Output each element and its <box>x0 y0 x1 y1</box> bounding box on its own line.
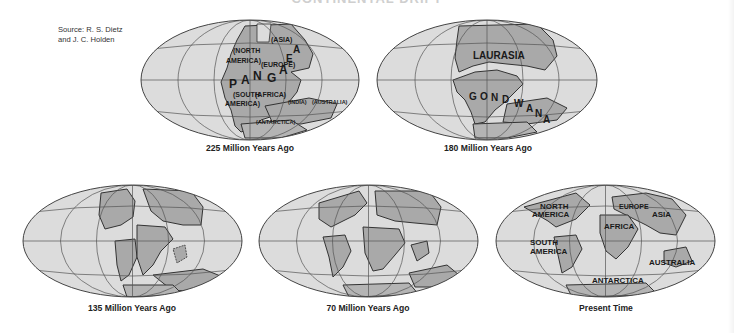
caption-70-million-years-ago: 70 Million Years Ago <box>326 303 409 313</box>
svg-text:A: A <box>526 103 533 114</box>
label-africa: (AFRICA) <box>255 91 286 99</box>
globe-135-mya <box>23 185 242 297</box>
source-line-2: and J. C. Holden <box>58 35 123 45</box>
label-north-america: AMERICA <box>532 210 570 219</box>
label-asia: ASIA <box>652 210 671 219</box>
map-135-million-years-ago <box>23 185 242 297</box>
pangaea-globe: (ASIA) (NORTH AMERICA) (EUROPE) (SOUTH A… <box>141 20 359 140</box>
globe-70-mya <box>259 185 478 297</box>
map-180-million-years-ago: LAURASIA G O N D W A N A <box>377 20 597 140</box>
label-south: SOUTH <box>530 238 558 247</box>
svg-text:G: G <box>469 91 477 102</box>
caption-present-time: Present Time <box>579 303 633 313</box>
svg-text:W: W <box>514 98 524 109</box>
label-south-america: AMERICA <box>530 247 568 256</box>
svg-text:A: A <box>543 114 550 125</box>
caption-135-million-years-ago: 135 Million Years Ago <box>88 303 176 313</box>
source-line-1: Source: R. S. Dietz <box>58 25 123 35</box>
svg-text:P: P <box>229 77 237 91</box>
svg-text:A: A <box>279 63 288 77</box>
figure-title-cropped: CONTINENTAL DRIFT <box>0 0 734 6</box>
caption-225-million-years-ago: 225 Million Years Ago <box>206 143 294 153</box>
label-africa: AFRICA <box>604 222 634 231</box>
svg-text:A: A <box>293 44 300 55</box>
svg-text:N: N <box>253 69 262 83</box>
label-europe: EUROPE <box>619 203 649 210</box>
source-credit: Source: R. S. Dietz and J. C. Holden <box>58 25 123 45</box>
globe-present: NORTH AMERICA EUROPE ASIA AFRICA SOUTH A… <box>496 185 715 297</box>
label-australia: (AUSTRALIA) <box>312 99 348 105</box>
svg-text:G: G <box>267 71 276 85</box>
laurasia-gondwana-globe: LAURASIA G O N D W A N A <box>377 20 597 140</box>
svg-text:N: N <box>535 108 542 119</box>
label-north: (NORTH <box>233 47 260 55</box>
caption-180-million-years-ago: 180 Million Years Ago <box>444 143 532 153</box>
label-asia: (ASIA) <box>271 36 292 44</box>
map-present-time: NORTH AMERICA EUROPE ASIA AFRICA SOUTH A… <box>496 185 715 297</box>
map-70-million-years-ago <box>259 185 478 297</box>
label-north-america: AMERICA) <box>226 57 261 65</box>
svg-text:D: D <box>502 94 509 105</box>
label-antarctica: (ANTARCTICA) <box>256 119 295 125</box>
label-india: (INDIA) <box>288 99 307 105</box>
label-laurasia: LAURASIA <box>473 50 525 61</box>
label-australia: AUSTRALIA <box>649 258 695 267</box>
map-225-million-years-ago: (ASIA) (NORTH AMERICA) (EUROPE) (SOUTH A… <box>141 20 359 140</box>
svg-text:N: N <box>491 92 498 103</box>
svg-text:E: E <box>286 53 293 64</box>
svg-text:O: O <box>480 91 488 102</box>
svg-text:A: A <box>241 73 250 87</box>
label-south-america: AMERICA) <box>225 100 260 108</box>
page-edge-shadow <box>728 0 734 333</box>
label-antarctica: ANTARCTICA <box>592 276 644 285</box>
